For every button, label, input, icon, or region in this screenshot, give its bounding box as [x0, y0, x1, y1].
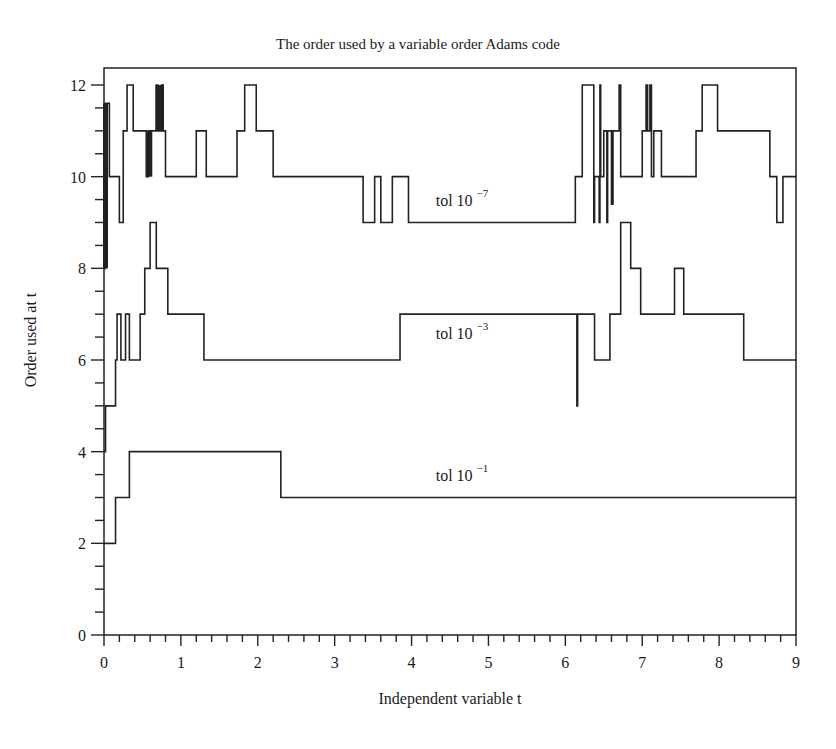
series-label-tol3: tol 10 −3	[436, 323, 489, 343]
svg-text:8: 8	[78, 260, 86, 277]
svg-text:6: 6	[78, 352, 86, 369]
svg-text:6: 6	[561, 654, 569, 671]
svg-text:12: 12	[70, 77, 86, 94]
svg-text:2: 2	[254, 654, 262, 671]
series-line-0	[104, 85, 796, 268]
svg-text:8: 8	[715, 654, 723, 671]
svg-text:10: 10	[70, 169, 86, 186]
axis-ticks: 0123456789024681012	[70, 77, 800, 671]
svg-text:4: 4	[78, 444, 86, 461]
axes-frame	[104, 68, 796, 635]
svg-text:4: 4	[408, 654, 416, 671]
svg-text:0: 0	[100, 654, 108, 671]
chart-plot: 0123456789024681012	[0, 0, 836, 749]
dense-oscillation-band	[103, 103, 108, 268]
series-label-tol7: tol 10 −7	[436, 190, 489, 210]
series-label-tol1: tol 10 −1	[436, 465, 489, 485]
svg-text:7: 7	[638, 654, 646, 671]
y-axis-label: Order used at t	[22, 293, 40, 388]
svg-text:9: 9	[792, 654, 800, 671]
x-axis-label: Independent variable t	[0, 690, 836, 708]
svg-text:1: 1	[177, 654, 185, 671]
svg-text:0: 0	[78, 627, 86, 644]
svg-text:2: 2	[78, 535, 86, 552]
svg-text:3: 3	[331, 654, 339, 671]
svg-text:5: 5	[484, 654, 492, 671]
